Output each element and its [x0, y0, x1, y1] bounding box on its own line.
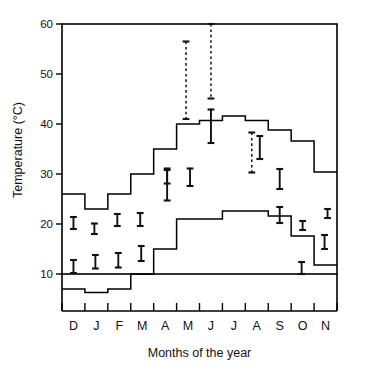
x-month-label-6: J: [208, 319, 214, 333]
max-temperature-step-line: [62, 116, 337, 209]
y-tick-label-10: 10: [40, 268, 53, 280]
error-bar-solid-N-12: [324, 209, 331, 218]
error-bar-small-J-0: [92, 255, 99, 269]
y-tick-label-50: 50: [40, 68, 53, 80]
x-month-label-10: O: [298, 319, 308, 333]
y-axis-tick-labels: 102030405060: [40, 18, 53, 280]
error-bar-solid-S-10: [276, 207, 283, 223]
error-bar-small-O-4: [298, 262, 305, 274]
error-bar-small-M-2: [138, 246, 145, 261]
error-bar-solid-M-6: [187, 169, 194, 187]
y-axis-title: Temperature (°C): [11, 102, 25, 198]
plot-frame: [62, 24, 337, 311]
chart-canvas: 102030405060 DJFMAMJJASON Months of the …: [0, 0, 373, 380]
y-tick-label-60: 60: [40, 18, 53, 30]
error-bar-solid-J-7: [208, 110, 215, 144]
error-bar-small-A-3: [164, 170, 171, 201]
error-bar-dashed-J-1: [208, 24, 215, 99]
y-tick-label-20: 20: [40, 218, 53, 230]
x-month-label-4: A: [161, 319, 170, 333]
error-bar-solid-S-9: [276, 169, 283, 189]
x-month-label-9: S: [276, 319, 284, 333]
error-bar-small-N-5: [321, 235, 328, 249]
error-bar-small-F-1: [115, 253, 122, 268]
error-bar-solid-M-4: [137, 213, 144, 226]
x-axis-ticks: [62, 303, 337, 311]
error-bar-solid-F-3: [114, 214, 121, 226]
error-bar-solid-D-0: [70, 217, 77, 229]
x-axis-month-labels: DJFMAMJJASON: [69, 319, 330, 333]
x-month-label-3: M: [137, 319, 147, 333]
error-bar-dashed-A-2: [248, 133, 255, 173]
x-month-label-1: J: [93, 319, 99, 333]
y-tick-label-40: 40: [40, 118, 53, 130]
error-bar-solid-J-2: [91, 224, 98, 235]
y-axis-ticks: [56, 24, 62, 274]
x-month-label-8: A: [253, 319, 262, 333]
temperature-chart-figure: 102030405060 DJFMAMJJASON Months of the …: [0, 0, 373, 380]
error-bar-solid-D-1: [70, 260, 77, 273]
x-axis-title: Months of the year: [148, 346, 252, 360]
min-temperature-step-line: [62, 211, 337, 293]
x-month-label-11: N: [321, 319, 330, 333]
error-bar-solid-O-11: [299, 221, 306, 230]
x-month-label-0: D: [69, 319, 78, 333]
x-month-label-2: F: [115, 319, 123, 333]
x-month-label-5: M: [183, 319, 193, 333]
y-tick-label-30: 30: [40, 168, 53, 180]
x-month-label-7: J: [231, 319, 237, 333]
step-series-group: [62, 116, 337, 293]
error-bar-solid-A-8: [256, 136, 263, 159]
error-bar-dashed-M-0: [183, 42, 190, 120]
